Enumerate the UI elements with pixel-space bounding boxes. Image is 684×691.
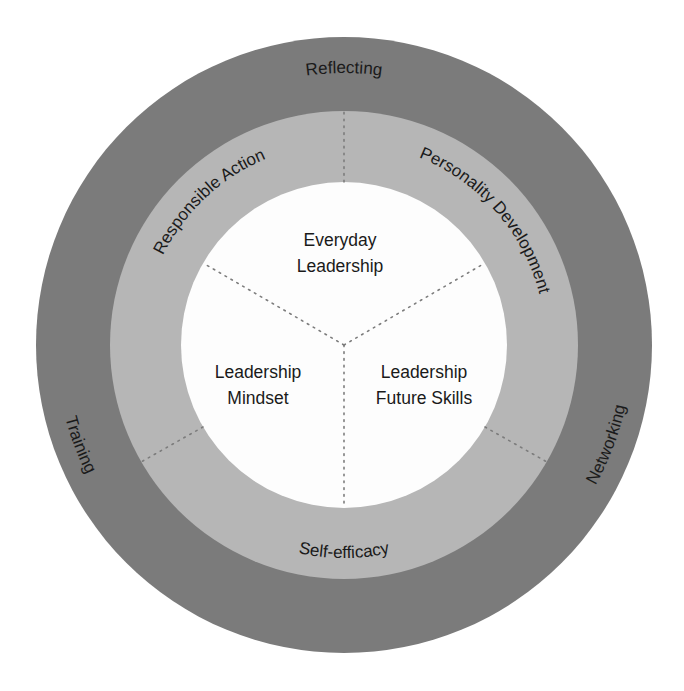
segment-leadership-mindset-line2: Mindset (227, 388, 288, 408)
segment-leadership-mindset-line1: Leadership (215, 362, 302, 382)
segment-leadership-future-skills-line2: Future Skills (376, 388, 473, 408)
leadership-ring-diagram: Reflecting Training Networking Responsib… (0, 0, 684, 691)
segment-everyday-leadership-line1: Everyday (304, 230, 377, 250)
segment-leadership-future-skills-line1: Leadership (381, 362, 468, 382)
outer-label-reflecting: Reflecting (305, 58, 384, 80)
segment-everyday-leadership-line2: Leadership (297, 256, 384, 276)
